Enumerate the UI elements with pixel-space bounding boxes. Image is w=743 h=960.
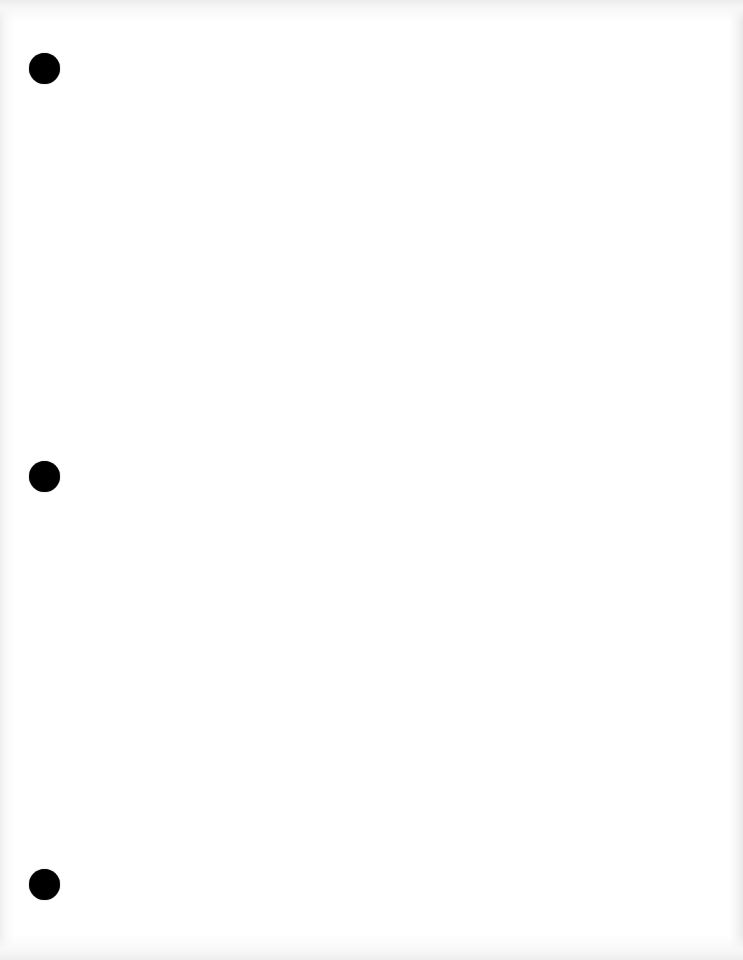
blank-page [0, 0, 743, 960]
punch-hole-top [29, 53, 60, 84]
punch-hole-bottom [29, 869, 60, 900]
punch-hole-middle [29, 461, 60, 492]
